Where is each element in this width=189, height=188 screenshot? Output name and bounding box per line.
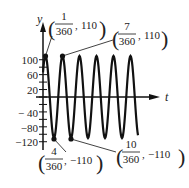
svg-text:360: 360: [119, 35, 136, 47]
svg-text:360: 360: [123, 153, 140, 165]
svg-text:(: (: [38, 150, 45, 175]
annotation-10-360: ( 10 360 , −110 ): [116, 138, 185, 169]
svg-text:360: 360: [46, 160, 63, 172]
ytick-100: 100: [22, 54, 39, 66]
leader-7: [63, 40, 114, 56]
ytick-neg120: −120: [15, 136, 38, 148]
svg-text:360: 360: [56, 25, 73, 37]
svg-text:−110: −110: [148, 148, 171, 160]
svg-text:110: 110: [81, 19, 98, 31]
annotation-4-360: ( 4 360 , −110 ): [38, 145, 103, 175]
svg-text:(: (: [48, 16, 55, 41]
ytick-neg80: −80: [21, 122, 39, 134]
annotation-1-360: ( 1 360 , 110 ): [48, 10, 106, 41]
svg-text:4: 4: [51, 145, 57, 157]
t-axis-arrow-icon: [149, 94, 160, 100]
leader-10: [71, 139, 116, 152]
svg-text:110: 110: [144, 29, 161, 41]
svg-text:−110: −110: [70, 154, 93, 166]
svg-text:): ): [96, 150, 103, 175]
svg-text:1: 1: [61, 10, 67, 22]
y-tick-labels: 100 60 20 − 40 −80 −120: [15, 54, 38, 148]
svg-text:,: ,: [75, 19, 78, 31]
ytick-60: 60: [27, 69, 39, 81]
svg-text:,: ,: [138, 29, 141, 41]
t-axis-label: t: [165, 90, 169, 104]
svg-text:,: ,: [64, 154, 67, 166]
svg-text:,: ,: [142, 148, 145, 160]
ytick-neg40: − 40: [18, 107, 38, 119]
annotation-7-360: ( 7 360 , 110 ): [112, 20, 168, 51]
ytick-20: 20: [27, 84, 39, 96]
svg-text:7: 7: [124, 20, 130, 32]
svg-text:10: 10: [126, 138, 138, 150]
svg-text:): ): [178, 144, 185, 169]
svg-text:): ): [99, 16, 106, 41]
y-axis-label: y: [36, 12, 43, 26]
svg-text:): ): [161, 26, 168, 51]
chart: y t 100 60 20 − 40 −80 −120 ( 1 360 , 11…: [0, 0, 189, 188]
